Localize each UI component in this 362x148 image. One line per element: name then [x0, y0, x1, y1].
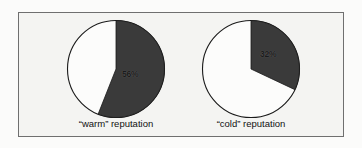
pie-cold-caption: “cold” reputation: [186, 118, 316, 129]
pie-chart-cold: 32% “cold” reputation: [186, 13, 316, 138]
pie-warm-value-label: 56%: [122, 69, 138, 79]
figure-frame: 56% “warm” reputation 32% “cold” reputat…: [18, 12, 344, 137]
pie-chart-warm: 56% “warm” reputation: [51, 13, 181, 138]
pie-cold-value-label: 32%: [260, 49, 276, 59]
pie-warm-caption: “warm” reputation: [51, 118, 181, 129]
pie-chart-figure: 56% “warm” reputation 32% “cold” reputat…: [0, 0, 362, 148]
pie-cold-graphic: [201, 19, 301, 119]
pie-warm-graphic: [66, 19, 166, 119]
